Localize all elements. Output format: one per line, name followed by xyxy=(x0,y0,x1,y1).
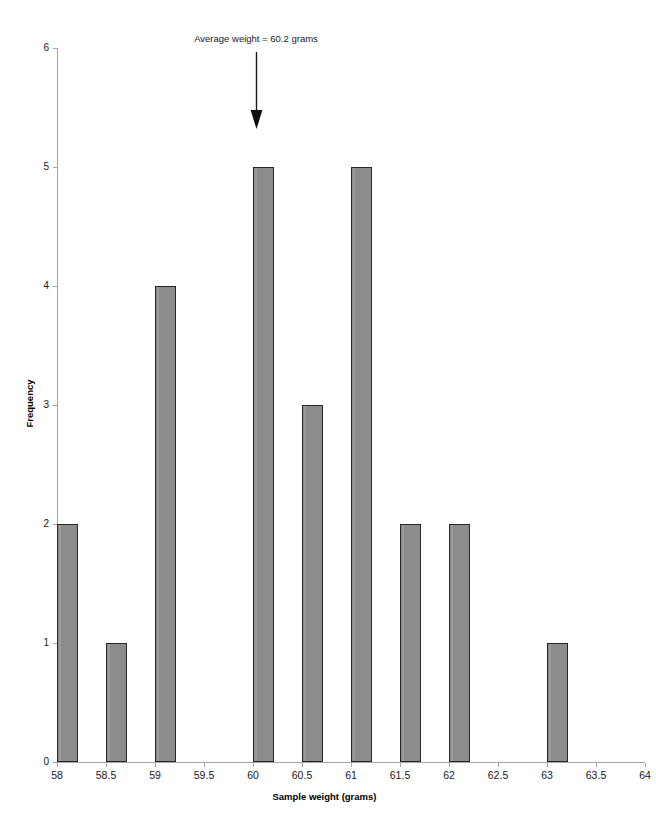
bar-highlight xyxy=(108,644,110,761)
y-tick-label: 0 xyxy=(9,757,49,767)
bar xyxy=(449,524,470,762)
bar-highlight xyxy=(304,406,306,761)
y-tick-label: 1 xyxy=(9,638,49,648)
x-tick-mark xyxy=(57,763,58,767)
x-tick-mark xyxy=(645,763,646,767)
x-axis-title: Sample weight (grams) xyxy=(0,791,649,802)
bar-highlight xyxy=(451,525,453,761)
bar xyxy=(547,643,568,762)
bar-highlight xyxy=(549,644,551,761)
x-tick-mark xyxy=(400,763,401,767)
chart-title xyxy=(0,0,649,2)
bar-highlight xyxy=(402,525,404,761)
bar xyxy=(302,405,323,762)
x-tick-mark xyxy=(596,763,597,767)
x-tick-mark xyxy=(253,763,254,767)
bar xyxy=(57,524,78,762)
bar xyxy=(155,286,176,762)
y-tick-label: 6 xyxy=(9,43,49,53)
x-tick-mark xyxy=(106,763,107,767)
bar-highlight xyxy=(157,287,159,761)
y-tick-label: 2 xyxy=(9,519,49,529)
down-arrow-icon xyxy=(249,52,265,130)
x-tick-mark xyxy=(155,763,156,767)
x-tick-mark xyxy=(204,763,205,767)
bar xyxy=(400,524,421,762)
y-axis-title: Frequency xyxy=(24,354,35,454)
x-tick-mark xyxy=(351,763,352,767)
bar xyxy=(106,643,127,762)
y-tick-label: 4 xyxy=(9,281,49,291)
bar-highlight xyxy=(59,525,61,761)
bar-highlight xyxy=(255,168,257,761)
bar xyxy=(253,167,274,762)
x-tick-mark xyxy=(302,763,303,767)
bar xyxy=(351,167,372,762)
x-tick-mark xyxy=(498,763,499,767)
x-tick-label: 64 xyxy=(615,769,656,781)
x-tick-mark xyxy=(547,763,548,767)
x-tick-mark xyxy=(449,763,450,767)
bar-highlight xyxy=(353,168,355,761)
y-tick-label: 5 xyxy=(9,162,49,172)
average-weight-annotation-label: Average weight = 60.2 grams xyxy=(194,33,318,45)
